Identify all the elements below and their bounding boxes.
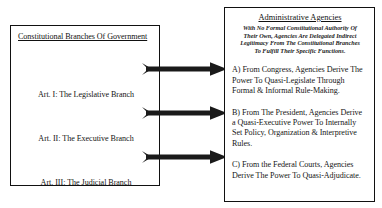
arrow-right-icon-legislative	[142, 61, 228, 77]
agency-power-paragraph-c: C) From the Federal Courts, Agencies Der…	[232, 160, 368, 181]
arrow-right-icon-executive	[142, 105, 228, 121]
constitutional-branches-box: Constitutional Branches Of Government Ar…	[10, 25, 160, 186]
arrow-right-icon-judicial	[142, 149, 228, 165]
paragraph-a-line-3: Formal & Informal Rule-Making.	[232, 86, 368, 96]
administrative-agencies-title: Administrative Agencies	[232, 13, 368, 23]
paragraph-b-line-4: Rules.	[232, 139, 368, 149]
agency-power-paragraph-a: A) From Congress, Agencies Derive The Po…	[232, 65, 368, 96]
administrative-agencies-diagram: Constitutional Branches Of Government Ar…	[0, 0, 382, 208]
subtitle-line-3: Legitimacy From The Constitutional Branc…	[232, 39, 368, 47]
branch-item-legislative: Art. I: The Legislative Branch	[11, 90, 161, 100]
subtitle-line-1: With No Formal Constitutional Authority …	[232, 24, 368, 32]
administrative-agencies-subtitle: With No Formal Constitutional Authority …	[232, 24, 368, 54]
paragraph-b-line-2: a Quasi-Executive Power To Internally	[232, 118, 368, 128]
administrative-agencies-box: Administrative Agencies With No Formal C…	[224, 7, 375, 202]
subtitle-line-2: Their Own, Agencies Are Delegated Indire…	[232, 32, 368, 40]
subtitle-line-4: To Fulfill Their Specific Functions.	[232, 47, 368, 55]
agency-power-paragraph-b: B) From The President, Agencies Derive a…	[232, 108, 368, 150]
paragraph-c-line-2: Derive The Power To Quasi-Adjudicate.	[232, 171, 368, 181]
paragraph-b-line-3: Set Policy, Organization & Interpretive	[232, 128, 368, 138]
branch-item-judicial: Art. III: The Judicial Branch	[11, 178, 161, 188]
paragraph-b-line-1: B) From The President, Agencies Derive	[232, 108, 368, 118]
paragraph-a-line-2: Power To Quasi-Legislate Through	[232, 76, 368, 86]
branch-item-executive: Art. II: The Executive Branch	[11, 134, 161, 144]
constitutional-branches-title: Constitutional Branches Of Government	[18, 32, 147, 42]
paragraph-a-line-1: A) From Congress, Agencies Derive The	[232, 65, 368, 75]
paragraph-c-line-1: C) From the Federal Courts, Agencies	[232, 160, 368, 170]
